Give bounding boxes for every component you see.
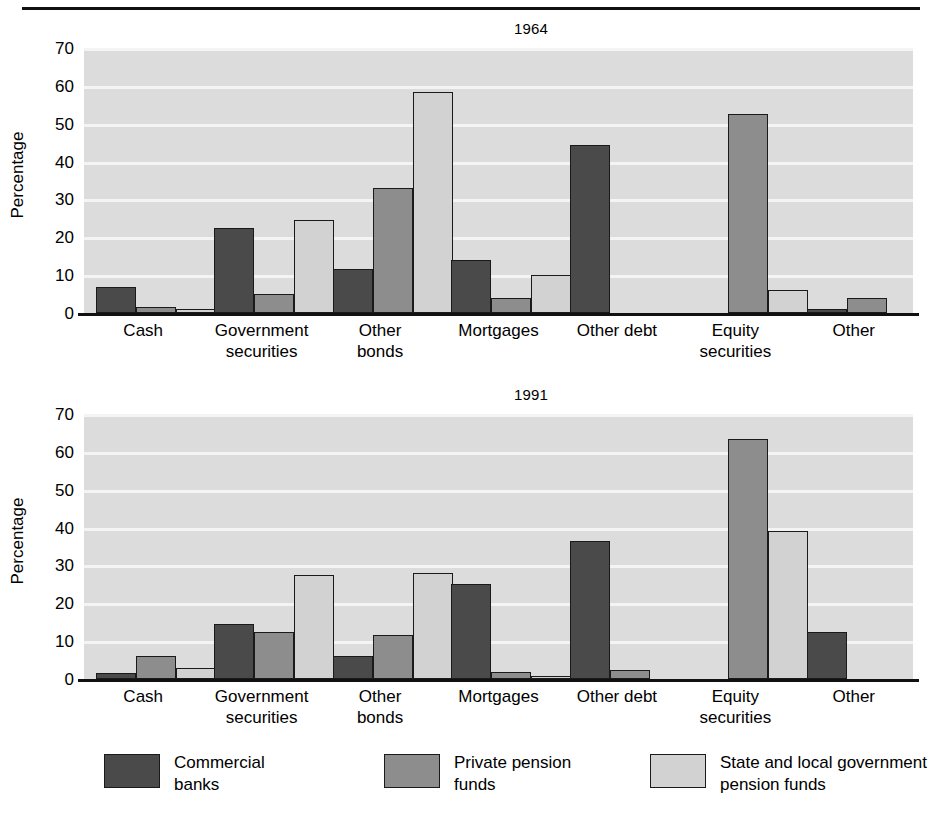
bar-group [676,414,794,679]
chart-1991: 1991 Percentage 010203040506070 CashGove… [0,386,942,736]
bar [373,635,413,679]
chart-title-1964: 1964 [0,20,942,37]
bar [491,298,531,313]
x-axis-label: Other [795,686,913,707]
x-axis-label: Cash [84,320,202,341]
y-axis-tick-label: 30 [55,557,74,574]
legend-label-commercial-banks: Commercial banks [174,752,265,796]
bar [214,228,254,313]
bar-group [321,48,439,313]
bar-group [202,48,320,313]
bar-group [84,48,202,313]
bar-group [439,48,557,313]
bar-group [676,48,794,313]
legend-swatch-private-pension-funds [384,754,440,788]
x-axis-label: Mortgages [439,320,557,341]
bar [451,584,491,679]
legend: Commercial banks Private pension funds S… [0,752,942,814]
x-axis-label: Equity securities [676,686,794,728]
y-axis-tick-label: 70 [55,40,74,57]
legend-label-state-local-pension-funds: State and local government pension funds [720,752,927,796]
bar-group [558,414,676,679]
plot-area-1991: 010203040506070 [84,414,913,679]
bar [136,656,176,679]
bar-group [795,414,913,679]
x-axis-label: Other bonds [321,320,439,362]
bar-groups-1964 [84,48,913,313]
bar [333,269,373,313]
legend-item-private-pension-funds: Private pension funds [384,752,571,796]
bar [570,145,610,313]
x-axis-label: Equity securities [676,320,794,362]
bar-group [795,48,913,313]
chart-title-1991: 1991 [0,386,942,403]
y-axis-label-1991: Percentage [8,461,28,621]
bar [373,188,413,313]
y-axis-tick-label: 0 [65,305,74,322]
bar [570,541,610,679]
x-axis-label: Other debt [558,320,676,341]
bar-group [321,414,439,679]
figure-page: 1964 Percentage 010203040506070 CashGove… [0,0,942,827]
x-axis-label: Mortgages [439,686,557,707]
y-axis-tick-label: 50 [55,481,74,498]
x-axis-line-1991 [78,679,919,682]
legend-item-commercial-banks: Commercial banks [104,752,265,796]
bar [214,624,254,679]
bar [451,260,491,313]
bar-group [84,414,202,679]
legend-item-state-local-pension-funds: State and local government pension funds [650,752,927,796]
legend-swatch-state-local-pension-funds [650,754,706,788]
x-axis-label: Cash [84,686,202,707]
x-axis-label: Government securities [202,320,320,362]
bar [333,656,373,679]
y-axis-tick-label: 20 [55,595,74,612]
x-axis-label: Other debt [558,686,676,707]
x-axis-labels-1964: CashGovernment securitiesOther bondsMort… [84,320,913,376]
bar [610,670,650,679]
bar [847,298,887,313]
x-axis-line-1964 [78,313,919,316]
y-axis-tick-label: 20 [55,229,74,246]
bar [728,439,768,679]
x-axis-labels-1991: CashGovernment securitiesOther bondsMort… [84,686,913,742]
y-axis-tick-label: 70 [55,406,74,423]
x-axis-label: Other [795,320,913,341]
y-axis-tick-label: 60 [55,443,74,460]
y-axis-label-1964: Percentage [8,95,28,255]
chart-1964: 1964 Percentage 010203040506070 CashGove… [0,20,942,380]
y-axis-tick-label: 40 [55,153,74,170]
y-axis-tick-label: 50 [55,115,74,132]
y-axis-tick-label: 30 [55,191,74,208]
plot-area-1964: 010203040506070 [84,48,913,313]
bar-group [439,414,557,679]
y-axis-tick-label: 0 [65,671,74,688]
bar [254,294,294,313]
bar [96,287,136,314]
bar [807,632,847,679]
bar-group [202,414,320,679]
bar-group [558,48,676,313]
top-divider-rule [22,7,920,10]
legend-label-private-pension-funds: Private pension funds [454,752,571,796]
x-axis-label: Government securities [202,686,320,728]
y-axis-tick-label: 10 [55,267,74,284]
bar [254,632,294,679]
bar-groups-1991 [84,414,913,679]
y-axis-tick-label: 60 [55,77,74,94]
y-axis-tick-label: 40 [55,519,74,536]
x-axis-label: Other bonds [321,686,439,728]
bar [491,672,531,679]
legend-swatch-commercial-banks [104,754,160,788]
bar [728,114,768,313]
y-axis-tick-label: 10 [55,633,74,650]
